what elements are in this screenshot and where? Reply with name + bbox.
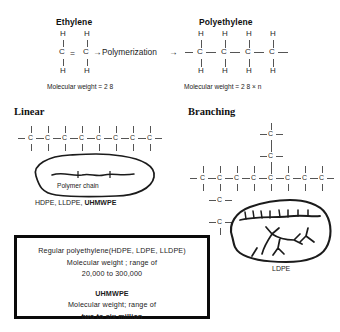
polymerization-arrow-left: → (93, 47, 102, 57)
branch-up-left-1 (260, 156, 267, 157)
pe-h-top-1: H (198, 30, 204, 38)
ethylene-h-bottom-1: H (60, 67, 66, 75)
linear-stub-bottom-5 (99, 144, 100, 151)
linear-bond-close (155, 138, 162, 139)
linear-stub-top-6 (116, 126, 117, 133)
linear-bond-1 (36, 138, 44, 139)
linear-heading: Linear (14, 106, 44, 117)
double-bond-symbol: = (70, 48, 75, 58)
branch-up-right-1 (276, 156, 283, 157)
branch-bond-1 (208, 178, 216, 179)
branch-stub-top-7 (305, 166, 306, 173)
branch-carbon-2: C (217, 174, 222, 181)
branch-bond-7 (310, 178, 318, 179)
info-line-5: Molecular weight; range of (17, 299, 207, 311)
linear-stub-top-5 (99, 126, 100, 133)
info-line-2: Molecular weight ; range of (17, 257, 207, 269)
linear-bond-3 (70, 138, 78, 139)
linear-stub-bottom-2 (48, 144, 49, 151)
polyethylene-molecular-weight: Molecular weight = 2 8 × n (184, 83, 261, 90)
pe-h-bottom-4: H (270, 67, 276, 75)
branch-stub-bottom-5 (271, 184, 272, 191)
branch-up-right-2 (276, 134, 283, 135)
linear-grades: HDPE, LLDPE, UHMWPE (35, 199, 116, 206)
ethylene-bond-bottom-2 (87, 59, 88, 66)
ethylene-h-top-1: H (60, 30, 66, 38)
branch-bond-open (190, 178, 197, 179)
linear-bond-2 (53, 138, 61, 139)
branch-up-carbon-2: C (268, 130, 273, 137)
ethylene-bond-top-1 (63, 40, 64, 47)
pe-carbon-3: C (245, 48, 251, 56)
ldpe-label: LDPE (272, 265, 290, 272)
blob-outline (231, 200, 331, 262)
info-line-1: Regular polyethylene(HDPE, LDPE, LLDPE) (17, 245, 207, 257)
linear-bond-5 (104, 138, 112, 139)
branch-stub-bottom-7 (305, 184, 306, 191)
branch-stub-top-8 (322, 166, 323, 173)
branch-up-bond-1 (271, 162, 272, 174)
linear-grades-plain: HDPE, LLDPE, (35, 199, 84, 206)
branched-polymer-tree (252, 227, 314, 256)
branch-carbon-3: C (234, 174, 239, 181)
pe-h-top-2: H (222, 30, 228, 38)
branch-carbon-7: C (302, 174, 307, 181)
linear-stub-bottom-8 (150, 144, 151, 151)
polymer-chain-callout (30, 152, 158, 198)
linear-stub-top-7 (133, 126, 134, 133)
polymerization-label: Polymerization (102, 47, 157, 57)
linear-stub-bottom-3 (65, 144, 66, 151)
branch-stub-top-4 (254, 166, 255, 173)
pe-bond-link-3 (254, 52, 264, 53)
pe-carbon-2: C (221, 48, 227, 56)
ethylene-bond-top-2 (87, 40, 88, 47)
linear-bond-open (18, 138, 25, 139)
ethylene-carbon-1: C (59, 48, 65, 56)
branch-dn-carbon-2: C (217, 218, 222, 225)
branch-carbon-5: C (268, 174, 273, 181)
linear-stub-top-8 (150, 126, 151, 133)
branch-carbon-1: C (200, 174, 205, 181)
polymer-squiggle (52, 174, 134, 176)
branch-up-bond-2 (271, 140, 272, 152)
linear-carbon-7: C (130, 134, 135, 141)
branch-dn-carbon-1: C (217, 196, 222, 203)
pe-bond-open (185, 52, 193, 53)
linear-stub-bottom-6 (116, 144, 117, 151)
branch-stub-top-6 (288, 166, 289, 173)
branch-dn-left-1 (209, 200, 216, 201)
pe-h-bottom-1: H (198, 67, 204, 75)
branch-carbon-8: C (319, 174, 324, 181)
diagram-canvas: Ethylene H H C = C H H → Polymerization … (0, 0, 340, 332)
ethylene-h-bottom-2: H (84, 67, 90, 75)
branch-up-carbon-1: C (268, 152, 273, 159)
linear-carbon-3: C (62, 134, 67, 141)
branch-stub-bottom-8 (322, 184, 323, 191)
branch-dn-cap (220, 228, 221, 235)
branch-up-left-2 (260, 134, 267, 135)
branch-stub-bottom-3 (237, 184, 238, 191)
polymerization-arrow-right: → (169, 47, 178, 57)
linear-bond-4 (87, 138, 95, 139)
pe-h-bottom-3: H (246, 67, 252, 75)
polyethylene-heading: Polyethylene (199, 17, 253, 27)
linear-stub-bottom-1 (31, 144, 32, 151)
ethylene-h-top-2: H (84, 30, 90, 38)
pe-h-bottom-2: H (222, 67, 228, 75)
linear-bond-6 (121, 138, 129, 139)
linear-grades-bold: UHMWPE (84, 199, 116, 206)
info-line-6: two to six million (17, 311, 207, 323)
branch-stub-top-3 (237, 166, 238, 173)
branch-stub-bottom-6 (288, 184, 289, 191)
pe-bond-link-2 (230, 52, 240, 53)
branch-carbon-4: C (251, 174, 256, 181)
ldpe-callout (228, 198, 334, 264)
branch-up-cap (271, 123, 272, 130)
molecular-weight-info-box: Regular polyethylene(HDPE, LDPE, LLDPE) … (14, 235, 210, 319)
ethylene-carbon-2: C (83, 48, 89, 56)
branch-bond-2 (225, 178, 233, 179)
pe-h-top-3: H (246, 30, 252, 38)
branch-bond-4 (259, 178, 267, 179)
branch-bond-close (327, 178, 334, 179)
ethylene-heading: Ethylene (56, 17, 92, 27)
